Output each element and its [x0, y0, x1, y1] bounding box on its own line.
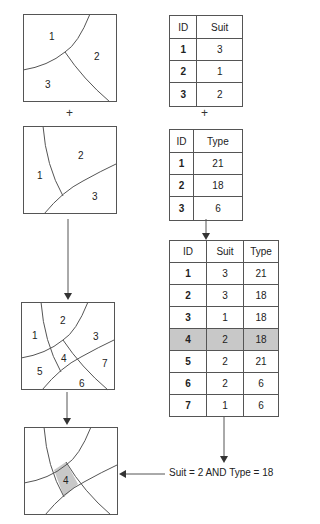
- table-union: IDSuitType 1321 2318 3118 4218 5221 626 …: [169, 240, 279, 417]
- polygon-label: 4: [63, 475, 69, 486]
- cell-suit: 3: [207, 285, 244, 307]
- cell-type: 21: [193, 153, 242, 175]
- query-expression: Suit = 2 AND Type = 18: [169, 467, 273, 478]
- header-id: ID: [170, 241, 207, 263]
- cell-type: 6: [193, 197, 242, 221]
- cell-id: 1: [170, 153, 194, 175]
- polygon-label: 6: [79, 378, 85, 389]
- arrow-down: [62, 219, 74, 301]
- map-union: 1 2 3 4 5 6 7: [21, 302, 116, 391]
- cell-type: 6: [244, 373, 279, 395]
- polygon-label: 3: [92, 191, 98, 202]
- map-result: 4: [24, 427, 118, 516]
- cell-type: 6: [244, 395, 279, 417]
- cell-id: 2: [170, 285, 207, 307]
- polygon-label: 2: [78, 150, 84, 161]
- table-row: 626: [170, 373, 279, 395]
- polygon-label: 2: [60, 315, 66, 326]
- arrow-down: [200, 219, 212, 241]
- cell-type: 21: [244, 351, 279, 373]
- polygon-label: 4: [61, 353, 67, 364]
- table-row: 1321: [170, 263, 279, 285]
- cell-suit: 1: [207, 395, 244, 417]
- map-layer-type: 2 1 3: [23, 126, 117, 215]
- header-id: ID: [170, 16, 197, 39]
- plus-sign: +: [66, 106, 73, 120]
- cell-type: 18: [244, 329, 279, 351]
- arrow-down: [218, 417, 230, 464]
- table-row: 2318: [170, 285, 279, 307]
- polygon-label: 1: [37, 170, 43, 181]
- cell-suit: 2: [197, 83, 243, 107]
- table-row: 3118: [170, 307, 279, 329]
- cell-id: 7: [170, 395, 207, 417]
- table-row: 5221: [170, 351, 279, 373]
- table-row: 716: [170, 395, 279, 417]
- arrow-left: [119, 469, 167, 479]
- cell-suit: 3: [207, 263, 244, 285]
- header-suit: Suit: [197, 16, 243, 39]
- header-id: ID: [170, 130, 194, 153]
- header-suit: Suit: [207, 241, 244, 263]
- cell-id: 3: [170, 83, 197, 107]
- cell-type: 21: [244, 263, 279, 285]
- table-type: IDType 121 218 36: [169, 129, 243, 221]
- cell-suit: 2: [207, 373, 244, 395]
- table-suit: IDSuit 13 21 32: [169, 15, 243, 107]
- cell-type: 18: [193, 175, 242, 197]
- header-type: Type: [244, 241, 279, 263]
- cell-id: 4: [170, 329, 207, 351]
- polygon-label: 7: [102, 358, 108, 369]
- cell-suit: 1: [197, 61, 243, 83]
- cell-suit: 1: [207, 307, 244, 329]
- cell-suit: 3: [197, 39, 243, 61]
- map-layer-suit: 1 2 3: [23, 14, 117, 103]
- arrow-down: [61, 392, 73, 426]
- polygon-label: 1: [32, 330, 38, 341]
- cell-id: 5: [170, 351, 207, 373]
- cell-suit: 2: [207, 329, 244, 351]
- table-row-highlighted: 4218: [170, 329, 279, 351]
- cell-type: 18: [244, 285, 279, 307]
- cell-id: 2: [170, 175, 194, 197]
- polygon-label: 5: [37, 366, 43, 377]
- plus-sign: +: [201, 106, 208, 120]
- cell-id: 3: [170, 197, 194, 221]
- polygon-label: 3: [93, 331, 99, 342]
- cell-suit: 2: [207, 351, 244, 373]
- cell-id: 1: [170, 263, 207, 285]
- cell-id: 3: [170, 307, 207, 329]
- header-type: Type: [193, 130, 242, 153]
- cell-type: 18: [244, 307, 279, 329]
- polygon-label: 1: [49, 31, 55, 42]
- polygon-label: 2: [94, 51, 100, 62]
- cell-id: 2: [170, 61, 197, 83]
- cell-id: 6: [170, 373, 207, 395]
- cell-id: 1: [170, 39, 197, 61]
- polygon-label: 3: [45, 79, 51, 90]
